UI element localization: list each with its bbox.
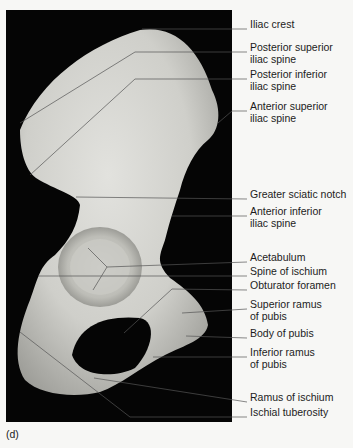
label-ramus-of-ischium: Ramus of ischium [250, 391, 333, 403]
panel-letter: (d) [6, 428, 19, 440]
label-posterior-superior-iliac-spine: Posterior superior iliac spine [250, 41, 333, 65]
label-obturator-foramen: Obturator foramen [250, 279, 336, 291]
label-body-of-pubis: Body of pubis [250, 327, 314, 339]
label-anterior-inferior-iliac-spine: Anterior inferior iliac spine [250, 205, 322, 229]
label-ischial-tuberosity: Ischial tuberosity [250, 406, 328, 418]
label-greater-sciatic-notch: Greater sciatic notch [250, 188, 346, 200]
label-iliac-crest: Iliac crest [250, 18, 294, 30]
label-superior-ramus-of-pubis: Superior ramus of pubis [250, 298, 322, 322]
label-posterior-inferior-iliac-spine: Posterior inferior iliac spine [250, 68, 327, 92]
label-inferior-ramus-of-pubis: Inferior ramus of pubis [250, 346, 315, 370]
label-acetabulum: Acetabulum [250, 251, 305, 263]
label-anterior-superior-iliac-spine: Anterior superior iliac spine [250, 100, 328, 124]
label-spine-of-ischium: Spine of ischium [250, 265, 327, 277]
